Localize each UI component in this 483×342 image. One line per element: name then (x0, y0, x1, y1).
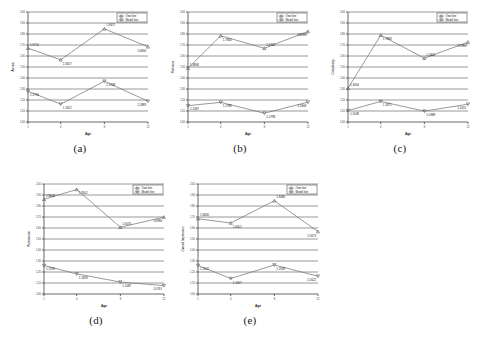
y-axis-label: Aroma (11, 62, 15, 71)
y-axis-label: Complexity (331, 59, 335, 74)
x-tick-label: 4 (230, 297, 232, 301)
y-tick-label: 1.70 (36, 215, 42, 219)
data-point-label: 1.1871 (383, 103, 392, 107)
y-tick-label: 1.80 (340, 32, 346, 36)
y-tick-label: 1.50 (180, 65, 186, 69)
panel-e-plot-svg: 1.001.101.201.301.401.501.601.701.801.90… (176, 180, 324, 312)
y-tick-label: 1.10 (190, 281, 196, 285)
y-tick-label: 1.30 (340, 87, 346, 91)
y-tick-label: 1.20 (340, 98, 346, 102)
y-tick-label: 1.00 (340, 120, 346, 124)
x-tick-label: 12 (467, 125, 470, 129)
y-tick-label: 1.20 (20, 98, 26, 102)
data-point-label: 1.7260 (457, 44, 466, 48)
y-axis-label: Richness (171, 60, 175, 73)
y-tick-label: 2.00 (190, 182, 196, 186)
data-point-label: 1.9502 (79, 191, 88, 195)
y-tick-label: 1.30 (36, 259, 42, 263)
y-tick-label: 1.60 (340, 54, 346, 58)
x-axis-label: Age (85, 132, 91, 136)
y-tick-label: 1.00 (20, 120, 26, 124)
x-tick-label: 8 (264, 125, 266, 129)
data-point-label: 1.7840 (223, 38, 232, 42)
y-tick-label: 1.40 (340, 76, 346, 80)
data-point-label: 1.2602 (200, 267, 209, 271)
panel-d: 1.001.101.201.301.401.501.601.701.801.90… (22, 180, 170, 330)
x-axis-label: Age (245, 132, 251, 136)
x-tick-label: 12 (317, 297, 320, 301)
legend-label: Model line (142, 190, 155, 194)
panel-a-plot: 1.001.101.201.301.401.501.601.701.801.90… (6, 8, 154, 158)
y-tick-label: 1.30 (20, 87, 26, 91)
data-point-label: 1.2639 (276, 267, 285, 271)
x-tick-label: 12 (163, 297, 166, 301)
series-line (348, 101, 468, 111)
series-line (44, 265, 164, 285)
x-axis-label: Age (101, 304, 107, 308)
y-tick-label: 1.70 (340, 43, 346, 47)
data-point-label: 1.6836 (137, 49, 146, 53)
y-tick-label: 1.30 (180, 87, 186, 91)
data-point-marker (306, 30, 309, 33)
data-point-label: 1.0798 (266, 115, 275, 119)
y-tick-label: 1.90 (190, 193, 196, 197)
y-tick-label: 1.90 (180, 21, 186, 25)
data-point-label: 1.6840 (200, 213, 209, 217)
x-tick-label: 4 (220, 125, 222, 129)
y-tick-label: 1.00 (36, 292, 42, 296)
x-axis-label: Age (255, 304, 261, 308)
series-line (188, 102, 308, 113)
legend-label: Model line (296, 190, 309, 194)
data-point-label: 1.1038 (350, 112, 359, 116)
y-tick-label: 1.90 (36, 193, 42, 197)
panel-d-plot: 1.001.101.201.301.401.501.601.701.801.90… (22, 180, 170, 330)
y-tick-label: 1.80 (190, 204, 196, 208)
panel-c-caption: (c) (326, 142, 474, 154)
y-tick-label: 1.10 (36, 281, 42, 285)
data-point-label: 1.5801 (426, 53, 435, 57)
data-point-label: 1.1828 (79, 276, 88, 280)
data-point-label: 1.4884 (190, 63, 199, 67)
data-point-marker (162, 284, 165, 287)
panel-b-plot: 1.001.101.201.301.401.501.601.701.801.90… (166, 8, 314, 158)
x-tick-label: 12 (147, 125, 150, 129)
y-tick-label: 1.50 (190, 237, 196, 241)
data-point-marker (146, 100, 149, 103)
series-line (28, 29, 148, 60)
panel-a-plot-svg: 1.001.101.201.301.401.501.601.701.801.90… (6, 8, 154, 140)
y-tick-label: 2.00 (180, 10, 186, 14)
y-tick-label: 1.50 (340, 65, 346, 69)
panel-d-plot-svg: 1.001.101.201.301.401.501.601.701.801.90… (22, 180, 170, 312)
panel-e: 1.001.101.201.301.401.501.601.701.801.90… (176, 180, 324, 330)
panel-a: 1.001.101.201.301.401.501.601.701.801.90… (6, 8, 154, 158)
y-tick-label: 1.80 (36, 204, 42, 208)
series-line (188, 31, 308, 68)
y-tick-label: 1.20 (36, 270, 42, 274)
y-axis-label: Overall Impression (181, 226, 185, 251)
data-point-label: 1.1487 (190, 107, 199, 111)
data-point-label: 1.5657 (63, 62, 72, 66)
data-point-label: 1.7888 (383, 37, 392, 41)
series-line (28, 81, 148, 104)
y-tick-label: 1.50 (36, 237, 42, 241)
y-tick-label: 2.00 (36, 182, 42, 186)
x-tick-label: 8 (104, 125, 106, 129)
data-point-label: 1.3708 (106, 83, 115, 87)
data-point-label: 1.8236 (297, 33, 306, 37)
y-tick-label: 1.70 (20, 43, 26, 47)
panel-b-plot-svg: 1.001.101.201.301.401.501.601.701.801.90… (166, 8, 314, 140)
series-line (348, 35, 468, 88)
y-tick-label: 1.40 (36, 248, 42, 252)
y-tick-label: 1.20 (190, 270, 196, 274)
y-tick-label: 1.70 (190, 215, 196, 219)
y-tick-label: 1.60 (36, 226, 42, 230)
y-tick-label: 1.40 (20, 76, 26, 80)
y-tick-label: 1.00 (180, 120, 186, 124)
figure-panel-grid: 1.001.101.201.301.401.501.601.701.801.90… (0, 0, 483, 342)
y-tick-label: 1.10 (180, 109, 186, 113)
y-tick-label: 1.10 (20, 109, 26, 113)
y-tick-label: 1.10 (340, 109, 346, 113)
x-tick-label: 1 (43, 297, 45, 301)
legend-label: Model line (446, 18, 459, 22)
data-point-label: 1.6986 (153, 219, 162, 223)
